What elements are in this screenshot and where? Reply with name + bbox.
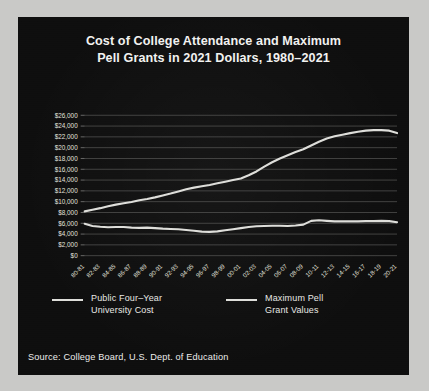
x-axis-tick-label: 06-07 [272, 262, 288, 279]
legend-label-pell-grant-line-2: Grant Values [265, 305, 323, 317]
x-axis-tick-label: 84-85 [101, 262, 117, 279]
x-axis-tick-label: 88-89 [132, 262, 148, 279]
chart-card: Cost of College Attendance and Maximum P… [18, 17, 409, 375]
legend-label-university-cost: Public Four–Year University Cost [91, 293, 162, 316]
legend-label-university-cost-line-2: University Cost [91, 305, 162, 317]
y-axis-tick-label: $10,000 [55, 198, 78, 205]
series-line [85, 130, 397, 211]
chart-title-line-2: Pell Grants in 2021 Dollars, 1980–2021 [32, 50, 395, 67]
x-axis-tick-label: 16-17 [350, 262, 366, 279]
x-axis-tick-label: 80-81 [69, 262, 85, 279]
x-axis-tick-label: 20-21 [382, 262, 398, 279]
chart-title: Cost of College Attendance and Maximum P… [18, 33, 409, 67]
legend-label-pell-grant-line-1: Maximum Pell [265, 293, 323, 305]
y-axis-tick-label: $14,000 [55, 176, 78, 183]
y-axis-tick-label: $12,000 [55, 187, 78, 194]
x-axis-tick-label: 08-09 [288, 262, 304, 279]
x-axis-tick-label: 04-05 [257, 262, 273, 279]
x-axis-tick-label: 02-03 [241, 262, 257, 279]
series-lines-group [85, 130, 397, 232]
gridlines-group [85, 115, 397, 255]
x-axis-tick-label: 94-95 [179, 262, 195, 279]
x-axis-tick-label: 96-97 [194, 262, 210, 279]
x-axis-tick-label: 12-13 [319, 262, 335, 279]
y-axis-tick-label: $4,000 [58, 230, 78, 237]
line-chart-plot: $0$2,000$4,000$6,000$8,000$10,000$12,000… [18, 17, 409, 375]
x-axis-tick-label: 00-01 [225, 262, 241, 279]
legend-swatch-pell-grant [226, 299, 257, 301]
y-axis-tick-label: $18,000 [55, 155, 78, 162]
tickmarks-group [81, 115, 85, 255]
legend-label-pell-grant: Maximum Pell Grant Values [265, 293, 323, 316]
legend-item-pell-grant: Maximum Pell Grant Values [208, 293, 382, 316]
x-axis-tick-labels: 80-8182-8384-8586-8788-8990-9192-9394-95… [69, 262, 398, 279]
legend-swatch-university-cost [52, 299, 83, 301]
legend-label-university-cost-line-1: Public Four–Year [91, 293, 162, 305]
series-line [85, 220, 397, 232]
legend-item-university-cost: Public Four–Year University Cost [52, 293, 208, 316]
x-axis-tick-label: 82-83 [85, 262, 101, 279]
y-axis-tick-label: $6,000 [58, 220, 78, 227]
x-axis-tick-label: 92-93 [163, 262, 179, 279]
y-axis-tick-label: $20,000 [55, 144, 78, 151]
chart-title-line-1: Cost of College Attendance and Maximum [32, 33, 395, 50]
figure-frame: Cost of College Attendance and Maximum P… [0, 0, 429, 391]
x-axis-tick-label: 90-91 [147, 262, 163, 279]
y-axis-tick-label: $24,000 [55, 122, 78, 129]
y-axis-tick-label: $26,000 [55, 112, 78, 119]
y-axis-tick-labels: $0$2,000$4,000$6,000$8,000$10,000$12,000… [55, 112, 78, 259]
chart-legend: Public Four–Year University Cost Maximum… [52, 293, 382, 316]
x-axis-tick-label: 10-11 [304, 262, 320, 278]
x-axis-tick-label: 14-15 [335, 262, 351, 279]
y-axis-tick-label: $8,000 [58, 209, 78, 216]
x-axis-tick-label: 18-19 [366, 262, 382, 279]
source-note: Source: College Board, U.S. Dept. of Edu… [28, 352, 228, 362]
x-axis-tick-label: 86-87 [116, 262, 132, 279]
y-axis-tick-label: $16,000 [55, 166, 78, 173]
y-axis-tick-label: $22,000 [55, 133, 78, 140]
x-axis-tick-label: 98-99 [210, 262, 226, 279]
y-axis-tick-label: $0 [71, 252, 79, 259]
y-axis-tick-label: $2,000 [58, 241, 78, 248]
